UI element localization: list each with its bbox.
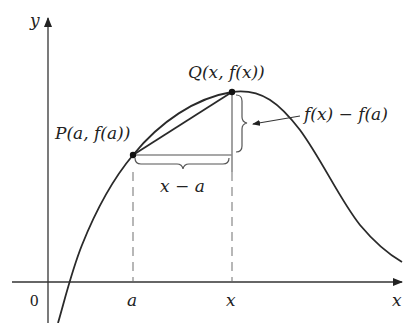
- x-axis-label: x: [392, 290, 402, 310]
- secant-diagram: y x 0 a x P(a, f(a)) Q(x, f(x)) x − a f(…: [0, 0, 410, 323]
- point-P: [130, 152, 136, 158]
- secant-line: [133, 92, 232, 155]
- origin-label: 0: [30, 291, 39, 310]
- horizontal-difference-label: x − a: [160, 176, 205, 196]
- point-Q-label: Q(x, f(x)): [188, 62, 265, 82]
- tick-label-a: a: [127, 290, 137, 310]
- vertical-difference-label: f(x) − f(a): [302, 104, 388, 124]
- vertical-brace: [236, 95, 247, 152]
- point-P-label: P(a, f(a)): [54, 123, 130, 143]
- tick-label-x: x: [226, 290, 236, 310]
- point-Q: [229, 89, 235, 95]
- horizontal-brace: [135, 158, 229, 169]
- y-axis-label: y: [29, 10, 40, 30]
